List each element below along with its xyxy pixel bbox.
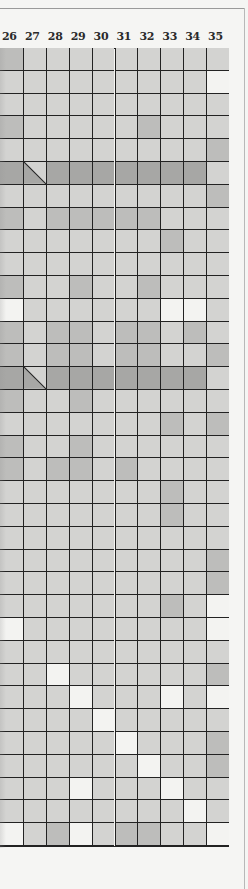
page-right-rule [244,8,245,889]
grid-cell [23,299,46,322]
grid-cell [69,344,92,367]
grid-cell [137,732,160,755]
grid-cell [92,116,115,139]
grid-cell [183,390,206,413]
grid-cell [115,755,138,778]
grid-cell [46,48,69,71]
grid-cell [137,116,160,139]
grid-cell [92,413,115,436]
grid-cell [206,390,229,413]
grid-cell [46,527,69,550]
grid-cell [183,116,206,139]
grid-cell [46,550,69,573]
grid-cell [69,436,92,459]
grid-cell [160,458,183,481]
grid-cell [183,458,206,481]
grid-cell [23,641,46,664]
grid-cell [137,230,160,253]
grid-cell [160,253,183,276]
grid-cell [160,208,183,231]
grid-cell [92,253,115,276]
grid-cell [23,755,46,778]
table-row [0,436,229,459]
table-row [0,504,229,527]
grid-cell [23,618,46,641]
grid-cell-diagonal-split [23,367,46,390]
table-row [0,778,229,801]
grid-cell [160,504,183,527]
grid-cell [137,550,160,573]
grid-cell [46,116,69,139]
grid-cell [183,732,206,755]
grid-cell [69,71,92,94]
grid-cell [160,139,183,162]
column-header: 31 [117,30,140,43]
column-header: 27 [25,30,48,43]
grid-cell [46,800,69,823]
grid-cell [137,139,160,162]
grid-cell [69,595,92,618]
grid-cell [183,139,206,162]
table-row [0,139,229,162]
grid-cell [115,572,138,595]
grid-cell [69,162,92,185]
grid-cell [92,48,115,71]
grid-cell [92,94,115,117]
table-row [0,253,229,276]
grid-cell [137,436,160,459]
grid-cell [46,686,69,709]
grid-cell [92,208,115,231]
grid-cell [23,527,46,550]
table-row [0,344,229,367]
grid-cell [160,732,183,755]
grid-cell [115,116,138,139]
grid-cell [183,48,206,71]
grid-cell [206,344,229,367]
grid-cell [23,344,46,367]
table-row [0,755,229,778]
grid-cell [23,778,46,801]
grid-cell [137,527,160,550]
table-row [0,527,229,550]
grid-cell [115,253,138,276]
grid-cell [46,595,69,618]
grid-cell [160,71,183,94]
table-row [0,390,229,413]
grid-cell [115,709,138,732]
table-row [0,230,229,253]
grid-cell [206,94,229,117]
grid-cell [46,481,69,504]
shaded-grid-table [0,48,229,847]
grid-cell [23,436,46,459]
grid-cell [115,800,138,823]
scan-edge-shadow [0,48,6,848]
grid-cell [115,458,138,481]
table-row [0,732,229,755]
grid-cell [137,641,160,664]
grid-cell [69,367,92,390]
grid-cell [92,481,115,504]
grid-cell [137,367,160,390]
grid-cell [69,664,92,687]
grid-cell [137,709,160,732]
grid-cell [183,504,206,527]
grid-cell [69,253,92,276]
grid-cell [69,550,92,573]
grid-cell [46,367,69,390]
grid-cell [46,299,69,322]
grid-cell [206,162,229,185]
grid-cell [206,664,229,687]
grid-cell [160,527,183,550]
table-row [0,641,229,664]
grid-cell [137,162,160,185]
grid-cell [160,344,183,367]
grid-cell [115,162,138,185]
grid-cell [160,641,183,664]
grid-cell [137,481,160,504]
grid-cell [69,458,92,481]
grid-cell [46,253,69,276]
grid-cell [160,230,183,253]
grid-cell [206,618,229,641]
grid-cell [160,595,183,618]
grid-cell [69,139,92,162]
